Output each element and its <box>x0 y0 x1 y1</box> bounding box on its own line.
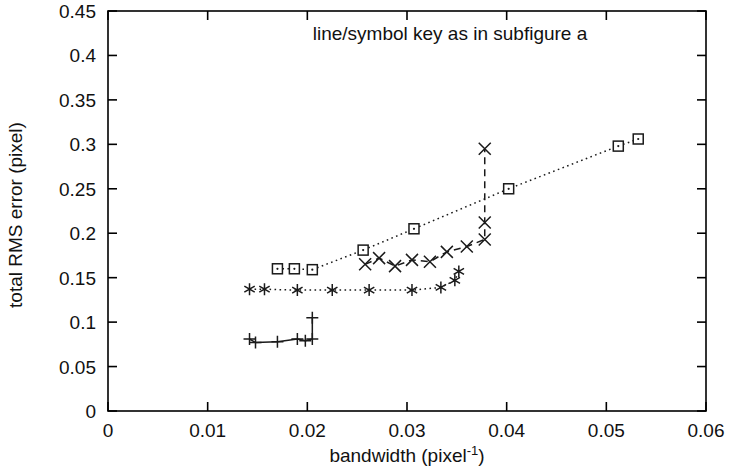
x-tick-label: 0.06 <box>688 420 725 441</box>
marker-x <box>359 258 371 270</box>
marker-square-center <box>413 228 415 230</box>
y-tick-label: 0.15 <box>59 268 96 289</box>
x-tick-label: 0.05 <box>588 420 625 441</box>
y-tick-label: 0.1 <box>70 312 96 333</box>
y-axis-ticks <box>108 11 706 411</box>
marker-plus <box>306 333 318 345</box>
y-axis-title: total RMS error (pixel) <box>5 122 26 308</box>
axis-frame <box>108 11 706 411</box>
marker-x <box>479 143 491 155</box>
marker-x <box>389 260 401 272</box>
y-tick-label: 0.35 <box>59 90 96 111</box>
marker-square-center <box>617 145 619 147</box>
chart-figure: 00.010.020.030.040.050.06 00.050.10.150.… <box>0 0 731 470</box>
marker-plus <box>299 335 311 347</box>
marker-x <box>461 241 473 253</box>
x-tick-label: 0.03 <box>389 420 426 441</box>
marker-asterisk <box>436 281 446 293</box>
series-plus-solid <box>244 312 319 349</box>
x-tick-label: 0 <box>103 420 114 441</box>
y-tick-label: 0.25 <box>59 179 96 200</box>
marker-plus <box>291 333 303 345</box>
marker-square-center <box>362 249 364 251</box>
scatter-line-chart: 00.010.020.030.040.050.06 00.050.10.150.… <box>0 0 731 470</box>
marker-square-center <box>508 188 510 190</box>
data-series-group <box>244 134 644 349</box>
series-cross-dashed <box>359 143 491 272</box>
y-tick-label: 0 <box>85 401 96 422</box>
x-axis-tick-labels: 00.010.020.030.040.050.06 <box>103 420 725 441</box>
key-annotation: line/symbol key as in subfigure a <box>313 23 588 44</box>
y-tick-label: 0.05 <box>59 357 96 378</box>
marker-plus <box>271 336 283 348</box>
marker-x <box>406 254 418 266</box>
marker-square-center <box>276 268 278 270</box>
y-tick-label: 0.2 <box>70 223 96 244</box>
marker-asterisk <box>244 283 254 295</box>
marker-x <box>441 246 453 258</box>
x-tick-label: 0.02 <box>289 420 326 441</box>
series-line-square-dotted <box>277 139 638 270</box>
y-tick-label: 0.4 <box>70 45 97 66</box>
y-axis-tick-labels: 00.050.10.150.20.250.30.350.40.45 <box>59 1 96 422</box>
y-tick-label: 0.3 <box>70 134 96 155</box>
series-line-cross-dashed <box>365 149 485 266</box>
marker-square-center <box>637 138 639 140</box>
series-square-dotted <box>272 134 643 275</box>
marker-square-center <box>293 268 295 270</box>
x-tick-label: 0.04 <box>488 420 525 441</box>
marker-square-center <box>311 269 313 271</box>
x-axis-ticks <box>108 11 706 411</box>
marker-x <box>373 252 385 264</box>
x-tick-label: 0.01 <box>189 420 226 441</box>
x-axis-title: bandwidth (pixel-1) <box>329 443 484 466</box>
marker-plus <box>306 312 318 324</box>
y-tick-label: 0.45 <box>59 1 96 22</box>
